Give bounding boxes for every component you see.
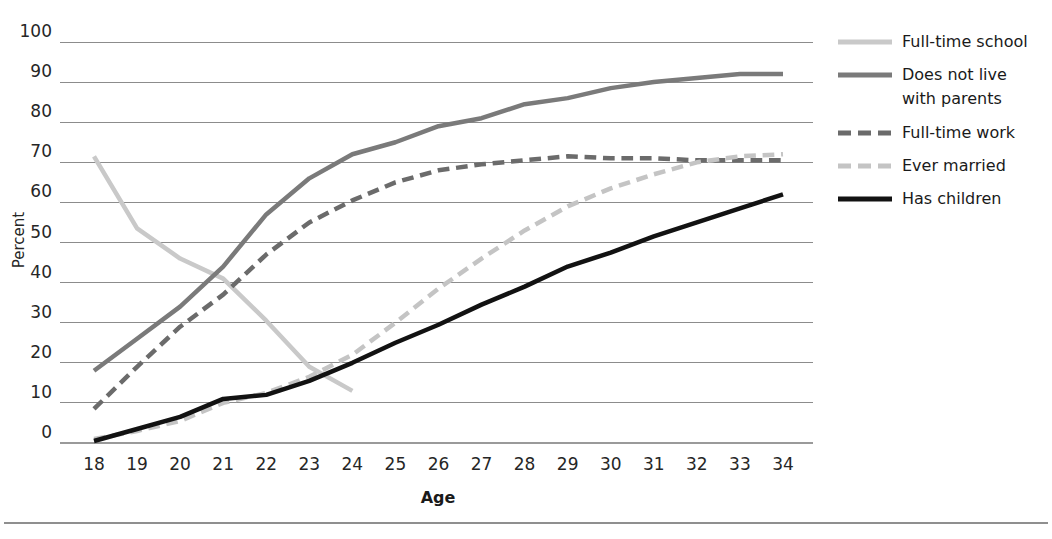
- x-tick-31: 31: [643, 454, 665, 474]
- x-tick-21: 21: [212, 454, 234, 474]
- x-tick-34: 34: [772, 454, 794, 474]
- legend-label-full-time-work: Full-time work: [902, 123, 1016, 142]
- x-tick-26: 26: [428, 454, 450, 474]
- x-tick-19: 19: [126, 454, 148, 474]
- y-tick-0: 0: [41, 422, 52, 442]
- x-tick-33: 33: [729, 454, 751, 474]
- x-tick-24: 24: [342, 454, 364, 474]
- legend-label-has-children: Has children: [902, 189, 1001, 208]
- x-tick-28: 28: [514, 454, 536, 474]
- line-chart: 0102030405060708090100 18192021222324252…: [0, 0, 1052, 539]
- x-tick-29: 29: [557, 454, 579, 474]
- y-tick-100: 100: [20, 21, 52, 41]
- y-tick-30: 30: [30, 302, 52, 322]
- x-tick-18: 18: [83, 454, 105, 474]
- x-axis-title: Age: [421, 488, 456, 507]
- y-tick-60: 60: [30, 181, 52, 201]
- y-tick-50: 50: [30, 222, 52, 242]
- x-tick-27: 27: [471, 454, 493, 474]
- y-tick-40: 40: [30, 262, 52, 282]
- legend-label-full-time-school: Full-time school: [902, 32, 1028, 51]
- y-tick-70: 70: [30, 141, 52, 161]
- y-tick-80: 80: [30, 101, 52, 121]
- chart-figure: 0102030405060708090100 18192021222324252…: [0, 0, 1052, 539]
- x-tick-32: 32: [686, 454, 708, 474]
- y-tick-10: 10: [30, 382, 52, 402]
- y-tick-20: 20: [30, 342, 52, 362]
- x-tick-30: 30: [600, 454, 622, 474]
- y-tick-90: 90: [30, 61, 52, 81]
- legend-label-does-not-live-with-parents-line2: with parents: [902, 89, 1002, 108]
- x-tick-23: 23: [298, 454, 320, 474]
- legend-label-ever-married: Ever married: [902, 156, 1006, 175]
- x-axis-tick-labels: 1819202122232425262728293031323334: [83, 454, 794, 474]
- legend-label-does-not-live-with-parents-line1: Does not live: [902, 65, 1007, 84]
- x-tick-22: 22: [255, 454, 277, 474]
- x-tick-25: 25: [385, 454, 407, 474]
- x-tick-20: 20: [169, 454, 191, 474]
- y-axis-title: Percent: [10, 212, 28, 269]
